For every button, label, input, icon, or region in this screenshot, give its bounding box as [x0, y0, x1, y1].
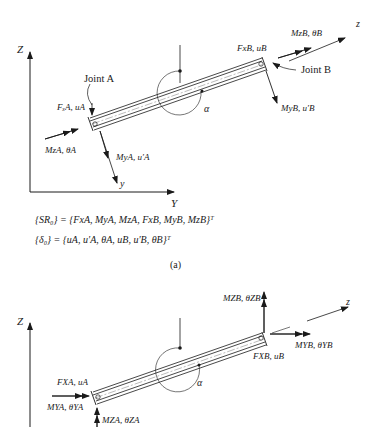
- local-z-axis: [289, 38, 345, 61]
- local-y-label: y: [120, 179, 124, 189]
- myb-label-b: MYB, θYB: [295, 341, 332, 350]
- figure-a: [30, 38, 345, 192]
- joint-a-circle: [93, 122, 97, 126]
- z-axis-label-b: Z: [17, 316, 23, 327]
- joint-a-leader: [87, 84, 92, 105]
- delta0-equation: {δ₀} = {uA, u′A, θA, uB, u′B, θB}ᵀ: [35, 235, 171, 245]
- alpha-label: α: [204, 104, 209, 114]
- y-axis-label: Y: [171, 198, 177, 209]
- figure-caption-a: (a): [170, 259, 181, 270]
- mzb-label-b: MZB, θZB: [223, 294, 260, 303]
- fxa-label: FₓA, uA: [57, 103, 85, 112]
- alpha-arc-b: [156, 348, 200, 392]
- mya-label: MyA, u′A: [116, 153, 149, 162]
- joint-b-label: Joint B: [301, 65, 331, 76]
- myb-label: MyB, u′B: [281, 104, 314, 113]
- beam-element-b: [91, 332, 267, 405]
- sr0-equation: {SR₀} = {FxA, MyA, MzA, FxB, MyB, MzB}ᵀ: [35, 215, 214, 225]
- mzb-label: MzB, θB: [291, 29, 322, 38]
- fxa-label-b: FXA, uA: [57, 378, 88, 387]
- alpha-label-b: α: [197, 378, 202, 388]
- mza-label: MzA, θA: [45, 146, 76, 155]
- fxb-label: FxB, uB: [237, 44, 267, 53]
- alpha-arc: [157, 71, 201, 115]
- local-z-axis-b: [307, 307, 348, 321]
- mza-label-b: MZA, θZA: [102, 416, 139, 425]
- joint-a-label: Joint A: [84, 74, 114, 85]
- local-z-label: z: [356, 19, 360, 29]
- fxb-label-b: FXB, uB: [253, 352, 284, 361]
- z-axis-label: Z: [17, 44, 23, 55]
- myb-arrow: [266, 71, 277, 103]
- mya-label-b: MYA, θYA: [47, 403, 83, 412]
- joint-b-leader: [273, 63, 296, 70]
- mya-arrow: [100, 131, 108, 158]
- beam-element-a: [88, 57, 267, 131]
- joint-b-circle: [259, 62, 263, 66]
- local-z-label-b: z: [346, 297, 350, 307]
